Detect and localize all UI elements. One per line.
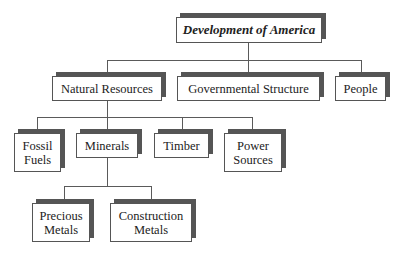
node-people: People	[335, 76, 386, 101]
node-label: Power Sources	[224, 133, 282, 172]
node-label: People	[335, 76, 386, 101]
connector-level2-bar	[37, 117, 253, 118]
node-development-of-america: Development of America	[176, 17, 322, 43]
node-label: Precious Metals	[32, 203, 90, 242]
node-label: Governmental Structure	[177, 76, 320, 101]
node-timber: Timber	[154, 133, 209, 158]
connector-level1-bar	[107, 60, 362, 61]
node-construction-metals: Construction Metals	[110, 203, 192, 242]
node-label: Fossil Fuels	[14, 133, 61, 172]
node-label: Construction Metals	[110, 203, 192, 242]
node-label: Natural Resources	[52, 76, 162, 101]
node-minerals: Minerals	[76, 133, 138, 158]
connector-nr-down	[107, 100, 108, 117]
node-fossil-fuels: Fossil Fuels	[14, 133, 61, 172]
node-power-sources: Power Sources	[224, 133, 282, 172]
connector-minerals-down	[107, 158, 108, 186]
node-precious-metals: Precious Metals	[32, 203, 90, 242]
connector-root-down	[248, 42, 249, 60]
node-label: Minerals	[76, 133, 138, 158]
node-label: Development of America	[176, 17, 322, 43]
node-label: Timber	[154, 133, 209, 158]
node-governmental-structure: Governmental Structure	[177, 76, 320, 101]
node-natural-resources: Natural Resources	[52, 76, 162, 101]
connector-level3-bar	[64, 186, 152, 187]
